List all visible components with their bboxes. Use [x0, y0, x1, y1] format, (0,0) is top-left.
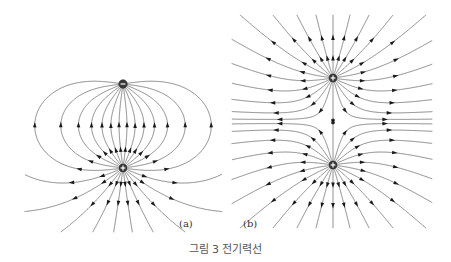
arrow-icon [90, 122, 94, 128]
arrow-icon [277, 122, 283, 126]
arrow-icon [33, 122, 37, 128]
arrow-icon [273, 111, 279, 115]
arrow-icon [360, 70, 366, 75]
field-line [35, 81, 119, 170]
arrow-icon [99, 174, 105, 179]
arrow-icon [302, 152, 308, 157]
field-line [232, 140, 330, 162]
arrow-icon [382, 118, 388, 122]
arrow-icon [318, 56, 324, 63]
arrow-icon [265, 56, 272, 62]
arrow-icon [393, 73, 399, 78]
arrow-icon [318, 181, 324, 188]
field-line [337, 81, 432, 103]
field-lines-canvas [0, 0, 451, 262]
arrow-icon [325, 55, 330, 61]
arrow-icon [360, 79, 366, 83]
arrow-icon [273, 128, 279, 132]
arrow-icon [393, 57, 400, 63]
arrow-icon [299, 168, 305, 173]
arrow-icon [107, 147, 113, 154]
arrow-icon [336, 55, 341, 61]
arrow-icon [354, 201, 360, 208]
arrow-icon [392, 88, 398, 92]
arrow-icon [331, 55, 335, 61]
arrow-icon [354, 35, 360, 42]
arrow-icon [331, 183, 335, 189]
arrow-icon [125, 122, 129, 128]
field-line [232, 130, 330, 161]
arrow-icon [267, 88, 273, 92]
arrow-icon [342, 56, 348, 63]
arrow-icon [300, 79, 306, 83]
arrow-icon [304, 143, 311, 149]
positive-charge-icon [119, 164, 127, 172]
field-line [338, 152, 433, 163]
panel-a-label: (a) [179, 218, 193, 229]
arrow-icon [387, 128, 393, 132]
arrow-icon [139, 179, 146, 185]
field-line [232, 81, 330, 103]
arrow-icon [266, 165, 272, 170]
arrow-icon [392, 151, 398, 155]
field-line [338, 162, 432, 179]
arrow-icon [300, 177, 307, 183]
arrow-icon [359, 60, 366, 66]
field-line [232, 152, 329, 163]
field-line [232, 80, 329, 91]
arrow-icon [336, 182, 341, 188]
field-line [240, 15, 329, 76]
arrow-icon [306, 35, 312, 42]
field-line [79, 85, 120, 166]
field-line [336, 15, 369, 74]
arrow-icon [128, 147, 133, 153]
arrow-icon [265, 73, 271, 78]
positive-charge-icon [329, 161, 337, 169]
arrow-icon [300, 160, 306, 164]
arrow-icon [105, 200, 111, 207]
field-line [127, 85, 168, 166]
arrow-icon [71, 196, 77, 202]
arrow-icon [342, 202, 347, 208]
arrow-icon [359, 177, 366, 183]
arrow-icon [133, 147, 139, 154]
field-line [338, 80, 433, 91]
arrow-icon [166, 122, 170, 128]
arrow-icon [113, 147, 118, 153]
arrow-icon [358, 152, 364, 157]
arrow-icon [382, 122, 388, 126]
arrow-icon [393, 165, 399, 170]
arrow-icon [142, 174, 148, 179]
panel-b-like-charges [232, 15, 433, 229]
arrow-icon [152, 159, 158, 164]
arrow-icon [100, 179, 107, 185]
field-line [232, 39, 328, 77]
arrow-icon [393, 181, 400, 187]
arrow-icon [304, 94, 311, 100]
arrow-icon [59, 122, 63, 128]
negative-charge-icon [119, 80, 127, 88]
figure-caption: 그림 3 전기력선 [0, 240, 451, 256]
arrow-icon [142, 122, 146, 128]
positive-charge-icon [329, 74, 337, 82]
panel-a-dipole [25, 80, 223, 233]
arrow-icon [133, 122, 137, 128]
arrow-icon [319, 35, 324, 41]
field-line [338, 40, 432, 77]
arrow-icon [265, 181, 272, 187]
arrow-icon [358, 86, 364, 91]
panel-b-label: (b) [243, 218, 257, 229]
field-line [338, 167, 427, 228]
arrow-icon [153, 122, 157, 128]
arrow-icon [95, 153, 102, 159]
arrow-icon [127, 181, 132, 187]
arrow-icon [169, 196, 175, 202]
field-line [61, 172, 120, 232]
arrow-icon [389, 138, 395, 142]
field-line [336, 169, 369, 228]
electric-field-lines-figure: (a) (b) 그림 3 전기력선 [0, 0, 451, 262]
field-line [232, 82, 330, 113]
arrow-icon [342, 35, 347, 41]
arrow-icon [87, 159, 93, 164]
arrow-icon [389, 101, 395, 105]
